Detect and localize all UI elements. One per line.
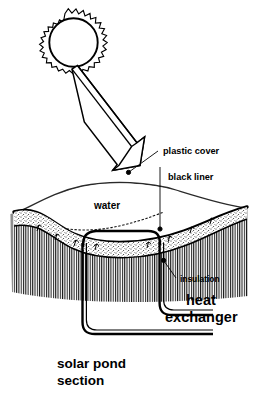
- sun-disc: [49, 18, 97, 66]
- leader-dot-black-liner: [158, 227, 162, 231]
- leader-dot-plastic-cover: [126, 170, 130, 174]
- solar-pond-diagram: plastic cover black liner water insulati…: [0, 0, 260, 398]
- label-insulation: insulation: [180, 274, 220, 284]
- label-black-liner: black liner: [168, 172, 214, 182]
- label-heat-exchanger-line2: exchanger: [165, 309, 238, 325]
- caption-line2: section: [57, 373, 104, 388]
- leader-dot-insulation: [162, 258, 166, 262]
- label-plastic-cover: plastic cover: [163, 146, 220, 156]
- label-heat-exchanger-line1: heat: [186, 292, 216, 308]
- caption-line1: solar pond: [57, 356, 126, 371]
- label-water: water: [93, 200, 120, 211]
